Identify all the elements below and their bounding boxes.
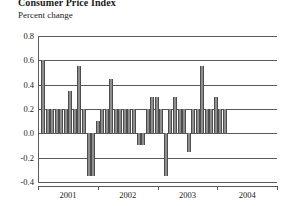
bar: [191, 109, 195, 133]
bar: [137, 133, 141, 145]
bar: [59, 109, 63, 133]
y-tick-label: -0.2: [2, 154, 34, 163]
x-tick: [217, 186, 218, 190]
y-tick-label: 0.6: [2, 56, 34, 65]
bar: [109, 79, 113, 134]
bar: [200, 66, 204, 133]
x-tick: [277, 186, 278, 190]
bar: [214, 97, 218, 134]
bar: [87, 133, 91, 176]
bar: [68, 91, 72, 134]
bar: [105, 109, 109, 133]
bar: [159, 109, 163, 133]
x-tick: [158, 186, 159, 190]
bar: [209, 109, 213, 133]
plot-area: 0.80.60.40.20.0-0.2-0.4: [38, 36, 277, 182]
bar: [118, 109, 122, 133]
bar: [77, 66, 81, 133]
bar: [150, 97, 154, 134]
y-tick-label: 0.2: [2, 105, 34, 114]
bar: [146, 109, 150, 133]
chart-subtitle: Percent change: [18, 10, 73, 20]
bar: [91, 133, 95, 176]
x-tick-label: 2002: [106, 191, 150, 200]
bar: [123, 109, 127, 133]
bar: [155, 97, 159, 134]
bar: [164, 133, 168, 176]
x-tick-label: 2003: [165, 191, 209, 200]
x-tick: [38, 186, 39, 190]
bar: [73, 109, 77, 133]
figure: Consumer Price Index Percent change 0.80…: [0, 0, 289, 206]
x-tick: [98, 186, 99, 190]
x-tick-label: 2001: [46, 191, 90, 200]
bar: [64, 109, 68, 133]
bar: [223, 109, 227, 133]
bar: [141, 133, 145, 145]
bar: [100, 109, 104, 133]
bar: [173, 97, 177, 134]
bar: [218, 109, 222, 133]
y-tick-label: 0.0: [2, 129, 34, 138]
bar: [168, 109, 172, 133]
bar: [187, 133, 191, 151]
bar: [196, 109, 200, 133]
bar: [82, 109, 86, 133]
bar: [46, 109, 50, 133]
bar: [127, 109, 131, 133]
bar: [96, 121, 100, 133]
y-tick-label: 0.8: [2, 32, 34, 41]
bar: [41, 60, 45, 133]
bar: [132, 109, 136, 133]
bar: [55, 109, 59, 133]
bar: [182, 109, 186, 133]
bar: [205, 109, 209, 133]
bar: [178, 109, 182, 133]
gridline--0.4: [38, 182, 277, 183]
bar: [50, 109, 54, 133]
y-tick-label: 0.4: [2, 81, 34, 90]
bar: [114, 109, 118, 133]
y-tick-label: -0.4: [2, 178, 34, 187]
page-title: Consumer Price Index: [18, 0, 116, 8]
x-tick-label: 2004: [225, 191, 269, 200]
bar-series: [38, 36, 277, 182]
